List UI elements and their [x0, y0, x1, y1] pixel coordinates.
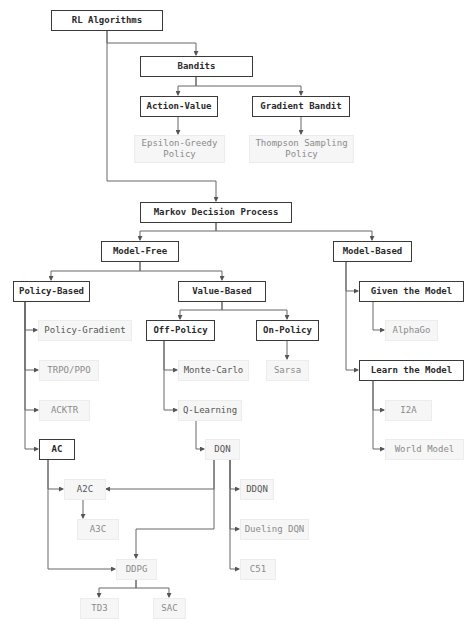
node-model-free: Model-Free [101, 241, 179, 262]
node-ac: AC [39, 439, 75, 460]
node-gradient-bandit: Gradient Bandit [252, 96, 350, 117]
node-value-based: Value-Based [178, 281, 266, 302]
node-learn-the-model: Learn the Model [359, 360, 464, 381]
node-off-policy: Off-Policy [146, 320, 215, 341]
node-trpo-ppo: TRPO/PPO [39, 360, 99, 381]
node-alphago: AlphaGo [385, 320, 438, 341]
node-td3: TD3 [80, 598, 119, 619]
node-policy-based: Policy-Based [13, 281, 90, 302]
node-rl-algorithms: RL Algorithms [51, 10, 163, 31]
edges-layer [0, 0, 475, 633]
node-a2c: A2C [64, 479, 106, 500]
node-monte-carlo: Monte-Carlo [178, 360, 249, 381]
node-thompson-sampling-policy: Thompson Sampling Policy [249, 135, 354, 163]
node-world-model: World Model [385, 439, 464, 460]
node-policy-gradient: Policy-Gradient [38, 320, 132, 341]
node-dqn: DQN [205, 439, 240, 460]
node-acktr: ACKTR [39, 400, 90, 421]
node-q-learning: Q-Learning [178, 400, 242, 421]
node-on-policy: On-Policy [256, 320, 319, 341]
node-a3c: A3C [77, 519, 119, 540]
node-given-the-model: Given the Model [359, 281, 464, 302]
node-i2a: I2A [385, 400, 432, 421]
node-sac: SAC [153, 598, 186, 619]
node-model-based: Model-Based [333, 241, 412, 262]
node-sarsa: Sarsa [266, 360, 309, 381]
node-c51: C51 [240, 559, 276, 580]
node-epsilon-greedy-policy: Epsilon-Greedy Policy [134, 135, 225, 163]
node-dueling-dqn: Dueling DQN [240, 519, 309, 540]
node-action-value: Action-Value [140, 96, 218, 117]
node-ddpg: DDPG [116, 559, 157, 580]
node-ddqn: DDQN [240, 479, 274, 500]
node-markov-decision-process: Markov Decision Process [140, 202, 292, 223]
rl-algorithms-diagram: RL Algorithms Bandits Action-Value Gradi… [0, 0, 475, 633]
node-bandits: Bandits [140, 56, 253, 77]
